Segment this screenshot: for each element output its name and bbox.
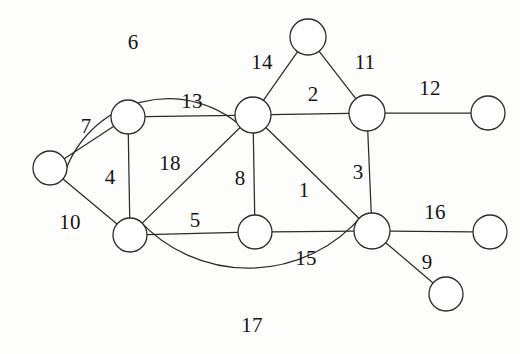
- node-center-hub: [235, 97, 271, 133]
- edge-label-12: 12: [419, 78, 440, 99]
- edge-label-16: 16: [424, 202, 445, 223]
- graph-edge-4: [128, 134, 129, 218]
- node-left: [33, 151, 67, 185]
- graph-edge-3: [368, 131, 371, 213]
- node-right-top-end: [471, 96, 505, 130]
- edge-label-2: 2: [308, 84, 319, 105]
- edge-label-8: 8: [235, 168, 246, 189]
- graph-edge-6: [63, 99, 248, 180]
- graph-edge-2: [271, 113, 349, 114]
- edge-label-9: 9: [422, 252, 433, 273]
- edge-label-3: 3: [353, 162, 364, 183]
- node-lower-right: [354, 213, 390, 249]
- edge-label-5: 5: [190, 210, 201, 231]
- edge-label-1: 1: [299, 180, 310, 201]
- edge-label-7: 7: [81, 116, 92, 137]
- graph-edge-1: [266, 128, 359, 219]
- graph-edge-5: [147, 232, 238, 234]
- node-bottom-center: [238, 215, 272, 249]
- graph-edge-8: [253, 133, 254, 215]
- graph-edge-11: [319, 51, 356, 99]
- node-right-mid-end: [473, 215, 507, 249]
- node-upper-left: [111, 100, 145, 134]
- node-lower-left: [113, 218, 147, 252]
- edge-label-11: 11: [355, 52, 376, 73]
- node-bottom-end: [429, 277, 463, 311]
- graph-edge-13: [145, 115, 235, 116]
- edge-label-15: 15: [295, 248, 316, 269]
- edge-label-17: 17: [241, 315, 262, 336]
- edge-label-4: 4: [105, 167, 116, 188]
- graph-figure: 123456789101112131415161718: [0, 0, 520, 354]
- graph-edge-15: [272, 231, 354, 232]
- edge-label-13: 13: [181, 91, 202, 112]
- edge-label-14: 14: [251, 52, 272, 73]
- graph-edge-16: [390, 231, 473, 232]
- node-upper-right: [349, 95, 385, 131]
- edge-label-18: 18: [159, 153, 180, 174]
- edge-label-6: 6: [128, 32, 139, 53]
- node-top: [290, 19, 326, 55]
- edge-label-10: 10: [59, 212, 80, 233]
